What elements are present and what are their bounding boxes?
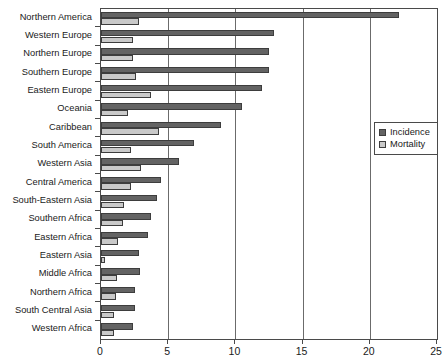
gridline [235,9,236,339]
bar-mortality [101,128,159,134]
category-label: Northern America [20,12,92,22]
bar-mortality [101,202,124,208]
bar-mortality [101,330,114,336]
bar-incidence [101,232,148,238]
y-tick-mark [95,191,100,192]
bar-mortality [101,183,131,189]
y-tick-mark [95,45,100,46]
bar-incidence [101,122,221,128]
x-tick-mark [234,339,235,344]
y-tick-mark [95,283,100,284]
legend-item-mortality: Mortality [379,138,433,150]
chart-legend: Incidence Mortality [374,122,438,155]
legend-swatch-mortality [379,141,386,148]
category-label: Eastern Asia [40,250,92,260]
bar-incidence [101,158,179,164]
bar-incidence [101,250,139,256]
x-tick-label: 10 [229,345,241,357]
category-label: Eastern Africa [34,232,92,242]
y-tick-mark [95,81,100,82]
category-label: Southern Europe [22,67,92,77]
bar-incidence [101,195,157,201]
bar-incidence [101,48,269,54]
bar-mortality [101,275,117,281]
gridline [168,9,169,339]
y-tick-mark [95,155,100,156]
category-label: Eastern Europe [27,85,92,95]
bar-mortality [101,37,133,43]
bar-incidence [101,103,242,109]
y-tick-mark [95,63,100,64]
bar-mortality [101,55,133,61]
bar-mortality [101,312,114,318]
category-label: South America [32,140,92,150]
category-label: Western Africa [32,323,92,333]
bar-incidence [101,85,262,91]
x-tick-mark [167,339,168,344]
legend-label-incidence: Incidence [390,127,430,137]
bar-mortality [101,293,116,299]
legend-swatch-incidence [379,129,386,136]
bar-mortality [101,257,105,263]
legend-item-incidence: Incidence [379,126,433,138]
y-tick-mark [95,320,100,321]
x-tick-label: 25 [430,345,442,357]
bar-mortality [101,18,139,24]
bar-mortality [101,238,118,244]
y-tick-mark [95,228,100,229]
plot-area [100,8,438,340]
bar-incidence [101,305,135,311]
category-label: Central America [26,177,92,187]
category-label: Western Asia [37,158,92,168]
x-tick-mark [369,339,370,344]
x-tick-label: 0 [97,345,103,357]
bar-mortality [101,165,141,171]
x-tick-label: 5 [164,345,170,357]
bar-incidence [101,67,269,73]
bar-mortality [101,110,128,116]
bar-incidence [101,287,135,293]
bar-incidence [101,140,194,146]
x-tick-mark [302,339,303,344]
bar-mortality [101,220,123,226]
x-tick-mark [100,339,101,344]
gridline [303,9,304,339]
y-tick-mark [95,136,100,137]
bar-incidence [101,177,161,183]
x-axis: 0510152025 [100,339,437,363]
category-label: Middle Africa [39,268,92,278]
category-label: Northern Africa [30,287,92,297]
category-label: Oceania [57,103,92,113]
bar-incidence [101,213,151,219]
bar-incidence [101,268,140,274]
category-label: South-Eastern Asia [12,195,92,205]
bar-incidence [101,30,274,36]
category-label: Northern Europe [23,48,92,58]
x-tick-label: 15 [296,345,308,357]
bar-mortality [101,147,131,153]
y-tick-mark [95,118,100,119]
bar-incidence [101,323,133,329]
y-tick-mark [95,301,100,302]
y-tick-mark [95,265,100,266]
y-tick-mark [95,246,100,247]
category-label: Southern Africa [28,213,92,223]
bar-incidence [101,12,399,18]
x-tick-mark [436,339,437,344]
legend-label-mortality: Mortality [390,139,425,149]
category-label: South Central Asia [15,305,92,315]
y-tick-mark [95,173,100,174]
y-tick-mark [95,100,100,101]
bar-mortality [101,73,136,79]
y-tick-mark [95,210,100,211]
category-label: Western Europe [25,30,92,40]
x-tick-label: 20 [363,345,375,357]
category-axis: Northern AmericaWestern EuropeNorthern E… [0,8,96,338]
category-label: Caribbean [49,122,92,132]
y-tick-mark [95,26,100,27]
bar-chart: Northern AmericaWestern EuropeNorthern E… [0,0,445,363]
gridline [370,9,371,339]
bar-mortality [101,92,151,98]
